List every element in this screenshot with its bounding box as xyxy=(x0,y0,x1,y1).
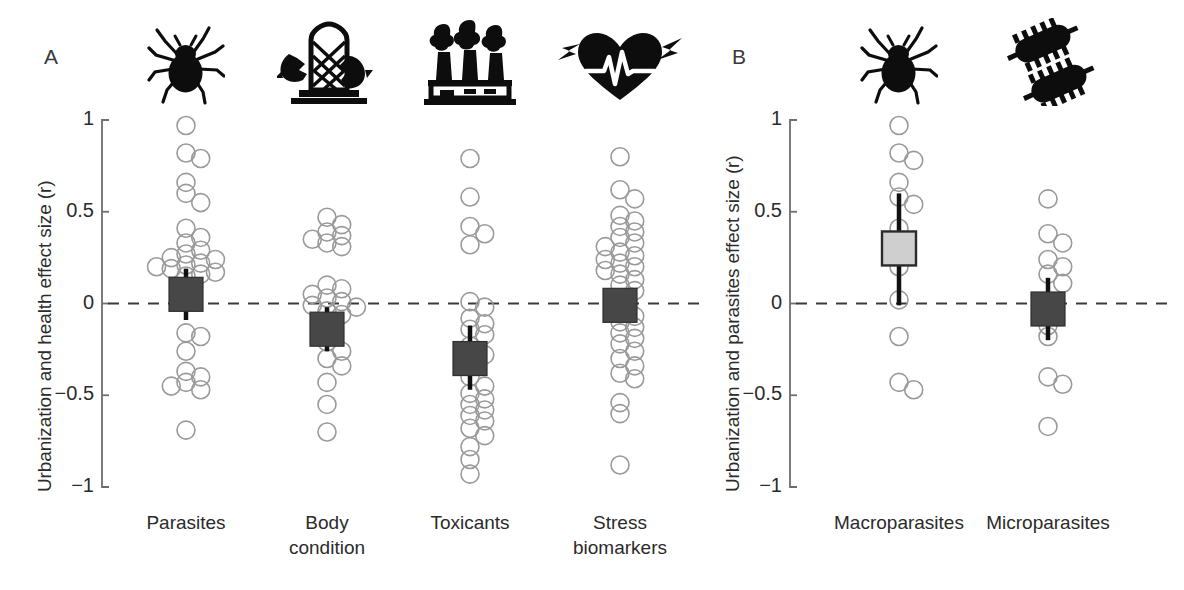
effect-size-point xyxy=(611,265,629,283)
effect-size-point xyxy=(626,247,644,265)
effect-size-point xyxy=(461,217,479,235)
effect-size-point xyxy=(177,234,195,252)
x-category-label-stress-biomarkers: Stressbiomarkers xyxy=(510,510,730,560)
tick-icon xyxy=(829,14,969,106)
effect-size-point xyxy=(1054,258,1072,276)
effect-size-point xyxy=(318,333,336,351)
effect-size-point xyxy=(177,184,195,202)
mean-effect-size-marker xyxy=(882,231,916,265)
bird-feeder-icon xyxy=(257,14,397,106)
effect-size-point xyxy=(177,173,195,191)
effect-size-point xyxy=(461,465,479,483)
effect-size-point xyxy=(461,368,479,386)
y-axis-title-panel-a: Urbanization and health effect size (r) xyxy=(34,180,56,492)
effect-size-point xyxy=(611,243,629,261)
effect-size-point xyxy=(890,173,908,191)
effect-size-point xyxy=(476,326,494,344)
effect-size-point xyxy=(611,456,629,474)
effect-size-point xyxy=(1039,317,1057,335)
effect-size-point xyxy=(611,148,629,166)
effect-size-point xyxy=(476,346,494,364)
figure-root: AUrbanization and health effect size (r)… xyxy=(0,0,1184,590)
effect-size-point xyxy=(1054,234,1072,252)
x-category-label-microparasites: Microparasites xyxy=(938,510,1158,535)
effect-size-point xyxy=(890,188,908,206)
x-category-label-line: condition xyxy=(217,535,437,560)
effect-size-point xyxy=(611,313,629,331)
effect-size-point xyxy=(905,151,923,169)
effect-size-point xyxy=(461,188,479,206)
effect-size-point xyxy=(611,324,629,342)
effect-size-point xyxy=(1054,375,1072,393)
effect-size-point xyxy=(476,225,494,243)
x-category-label-line: biomarkers xyxy=(510,535,730,560)
effect-size-point xyxy=(626,282,644,300)
effect-size-point xyxy=(626,212,644,230)
y-tick-label: −1 xyxy=(42,474,94,497)
effect-size-point xyxy=(1039,417,1057,435)
effect-size-point xyxy=(476,412,494,430)
effect-size-point xyxy=(318,302,336,320)
effect-size-point xyxy=(626,342,644,360)
effect-size-point xyxy=(476,315,494,333)
effect-size-point xyxy=(626,329,644,347)
effect-size-point xyxy=(626,258,644,276)
effect-size-point xyxy=(177,362,195,380)
effect-size-point xyxy=(890,291,908,309)
y-tick-label: 1 xyxy=(42,107,94,130)
scatter-points-stress-biomarkers xyxy=(596,148,643,474)
effect-size-point xyxy=(177,256,195,274)
effect-size-point xyxy=(461,150,479,168)
effect-size-point xyxy=(177,245,195,263)
effect-size-point xyxy=(476,427,494,445)
tick-icon xyxy=(116,14,256,106)
mean-effect-size-marker xyxy=(310,312,344,346)
effect-size-point xyxy=(611,228,629,246)
panel-letter-a: A xyxy=(44,45,59,69)
effect-size-point xyxy=(318,395,336,413)
effect-size-point xyxy=(177,324,195,342)
effect-size-point xyxy=(890,117,908,135)
effect-size-point xyxy=(206,250,224,268)
effect-size-point xyxy=(318,223,336,241)
effect-size-point xyxy=(905,381,923,399)
y-axis-spine xyxy=(102,120,109,487)
mean-effect-size-marker xyxy=(1031,292,1065,326)
effect-size-point xyxy=(611,217,629,235)
effect-size-point xyxy=(611,206,629,224)
effect-size-point xyxy=(626,370,644,388)
effect-size-point xyxy=(596,238,614,256)
effect-size-point xyxy=(611,335,629,353)
effect-size-point xyxy=(596,261,614,279)
mean-effect-size-marker xyxy=(453,342,487,376)
effect-size-point xyxy=(461,419,479,437)
effect-size-point xyxy=(461,384,479,402)
effect-size-point xyxy=(177,342,195,360)
effect-size-point xyxy=(626,190,644,208)
effect-size-point xyxy=(303,296,321,314)
effect-size-point xyxy=(192,368,210,386)
effect-size-point xyxy=(461,395,479,413)
effect-size-point xyxy=(626,271,644,289)
effect-size-point xyxy=(192,241,210,259)
scatter-points-microparasites xyxy=(1039,190,1072,436)
effect-size-point xyxy=(476,390,494,408)
y-tick-label: 1 xyxy=(730,107,782,130)
effect-size-point xyxy=(611,181,629,199)
effect-size-point xyxy=(905,195,923,213)
effect-size-point xyxy=(596,250,614,268)
effect-size-point xyxy=(476,298,494,316)
scatter-points-macroparasites xyxy=(890,117,923,399)
effect-size-point xyxy=(890,234,908,252)
effect-size-point xyxy=(611,276,629,294)
effect-size-point xyxy=(890,219,908,237)
effect-size-point xyxy=(611,302,629,320)
effect-size-point xyxy=(333,306,351,324)
effect-size-point xyxy=(626,307,644,325)
effect-size-point xyxy=(333,238,351,256)
effect-size-point xyxy=(318,276,336,294)
effect-size-point xyxy=(461,337,479,355)
effect-size-point xyxy=(1039,225,1057,243)
panel-letter-b: B xyxy=(732,45,747,69)
bacteria-icon xyxy=(978,14,1118,106)
